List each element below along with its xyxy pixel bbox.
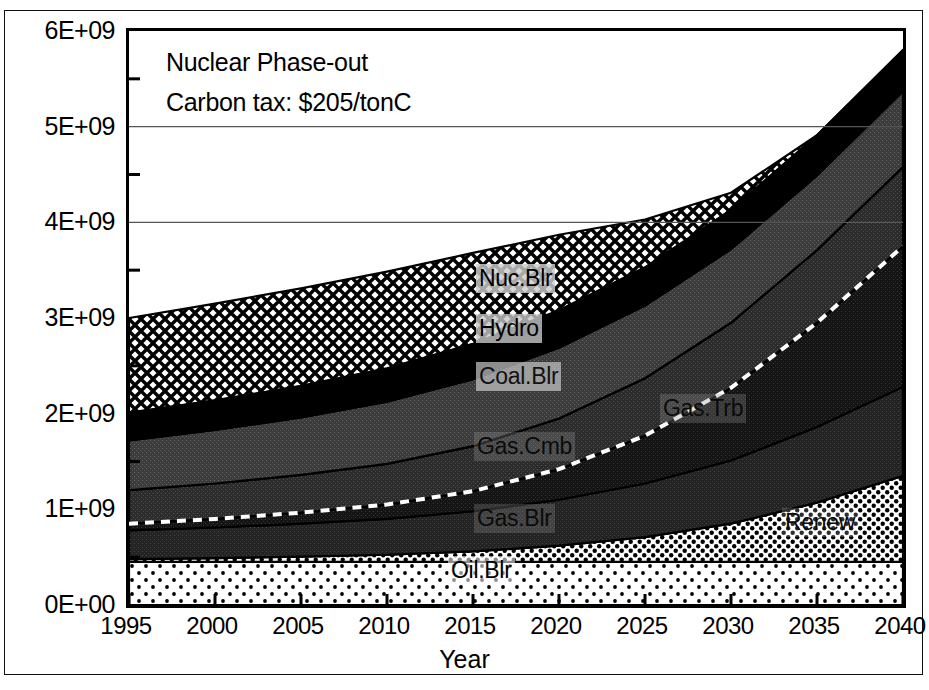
x-tick-label-2020: 2020: [511, 612, 601, 640]
annotation-line-1: Nuclear Phase-out: [166, 48, 368, 77]
x-tick-label-2010: 2010: [339, 612, 429, 640]
y-tick-label-5: 1E+09: [5, 494, 115, 523]
series-label-oil: Oil.Blr: [448, 556, 515, 585]
series-label-renew: Renew: [782, 508, 858, 537]
series-label-coal: Coal.Blr: [476, 362, 561, 391]
stacked-area-chart: 6E+09 5E+09 4E+09 3E+09 2E+09 1E+09 0E+0…: [0, 0, 929, 690]
y-tick-label-4: 2E+09: [5, 399, 115, 428]
series-label-nuc: Nuc.Blr: [476, 264, 555, 293]
x-axis-title: Year: [0, 645, 929, 674]
series-label-hydro: Hydro: [476, 314, 542, 343]
y-tick-label-0: 6E+09: [5, 16, 115, 45]
y-tick-label-2: 4E+09: [5, 207, 115, 236]
x-tick-label-2030: 2030: [683, 612, 773, 640]
series-label-gasblr: Gas.Blr: [474, 504, 555, 533]
x-tick-label-2015: 2015: [425, 612, 515, 640]
y-tick-label-1: 5E+09: [5, 112, 115, 141]
x-tick-label-2040: 2040: [855, 612, 929, 640]
series-label-gastrb: Gas.Trb: [660, 394, 746, 423]
x-tick-label-1995: 1995: [81, 612, 171, 640]
x-tick-label-2005: 2005: [253, 612, 343, 640]
series-label-gascmb: Gas.Cmb: [474, 432, 575, 461]
annotation-line-2: Carbon tax: $205/tonC: [166, 88, 411, 117]
area-band-oil-blr: [129, 562, 903, 605]
x-tick-label-2025: 2025: [597, 612, 687, 640]
x-tick-label-2000: 2000: [167, 612, 257, 640]
y-tick-label-3: 3E+09: [5, 303, 115, 332]
x-tick-label-2035: 2035: [769, 612, 859, 640]
